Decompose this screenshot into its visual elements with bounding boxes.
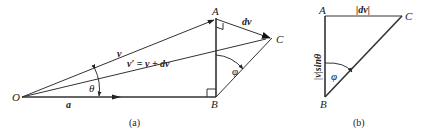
point-o-label: O [12, 91, 20, 103]
velocity-diagram: O A B C v v′ = v + dv a dv θ φ (a) A C B… [0, 0, 422, 137]
point-c-label: C [405, 10, 413, 22]
right-angle-b-marker [207, 89, 216, 97]
point-c-label: C [276, 33, 284, 45]
segment-bc-line [325, 16, 402, 97]
figure-a-caption: (a) [129, 117, 140, 129]
point-a-label: A [318, 4, 326, 16]
point-b-label: B [211, 98, 218, 110]
vector-v-label: v [117, 48, 122, 59]
phi-angle-arc [216, 55, 243, 69]
figure-a: O A B C v v′ = v + dv a dv θ φ (a) [12, 5, 284, 129]
vector-v-prime-label: v′ = v + dv [127, 58, 170, 69]
point-b-label: B [320, 98, 327, 110]
theta-angle-arc [95, 69, 100, 96]
figure-b-caption: (b) [353, 117, 365, 129]
v-sin-theta-label: |v|sinθ [312, 53, 323, 80]
theta-label: θ [89, 82, 95, 94]
vector-a-label: a [66, 99, 71, 110]
dv-magnitude-label: |dv| [356, 4, 370, 15]
phi-label: φ [331, 70, 337, 82]
segment-bc-line [216, 38, 272, 97]
vector-a-arrowhead [112, 95, 121, 100]
phi-label: φ [232, 65, 238, 77]
phi-angle-arc [325, 63, 352, 72]
figure-b: A C B |dv| |v|sinθ φ (b) [312, 4, 413, 129]
right-angle-a-marker [216, 23, 223, 30]
point-a-label: A [211, 5, 219, 17]
vector-dv-label: dv [242, 16, 252, 27]
